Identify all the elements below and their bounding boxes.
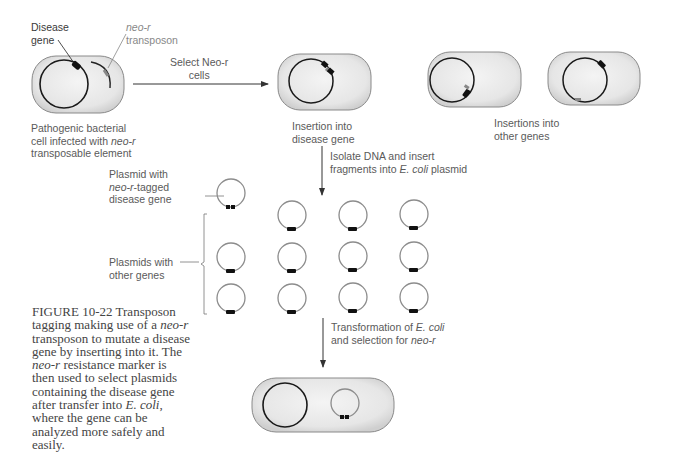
label-transform-step: Transformation of E. coli and selection … (331, 321, 444, 346)
label-select-step: Select Neo-r cells (170, 56, 228, 81)
label-neo-r-transposon: neo-r transposon (126, 21, 178, 46)
cell-insertion-disease (278, 54, 371, 110)
plasmid-grid (217, 200, 428, 314)
cell-insertion-other-1 (428, 52, 521, 107)
label-insertion-other: Insertions into other genes (494, 117, 559, 142)
plasmid-tagged (205, 179, 245, 209)
ecoli-cell (252, 378, 394, 432)
plasmids-bracket (180, 214, 207, 314)
figure-caption: FIGURE 10-22 Transposon tagging making u… (32, 305, 192, 451)
label-plasmid-tagged: Plasmid with neo-r-tagged disease gene (109, 168, 171, 206)
label-plasmids-other: Plasmids with other genes (109, 256, 173, 281)
label-insertion-disease: Insertion into disease gene (292, 120, 354, 145)
label-disease-gene: Disease gene (31, 21, 69, 46)
label-pathogenic-cell: Pathogenic bacterial cell infected with … (31, 122, 135, 160)
label-isolate-step: Isolate DNA and insert fragments into E.… (330, 150, 467, 175)
cell-insertion-other-2 (548, 52, 640, 105)
